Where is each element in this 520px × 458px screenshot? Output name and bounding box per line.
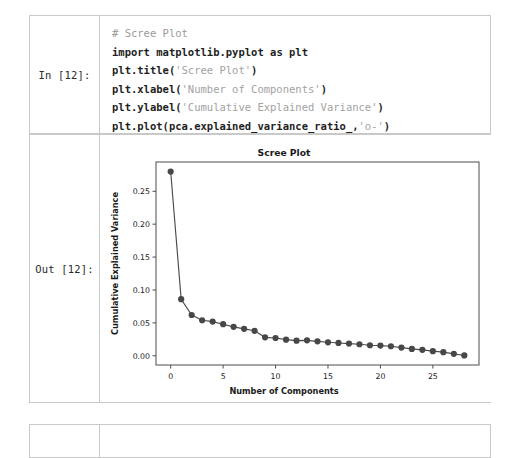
code-keyword-as: as <box>270 46 283 58</box>
input-source-area[interactable]: # Scree Plot import matplotlib.pyplot as… <box>100 16 490 133</box>
output-prompt-area: Out [12]: <box>30 135 100 402</box>
data-point-marker <box>419 347 425 353</box>
data-point-marker <box>199 317 205 323</box>
next-prompt-area <box>30 425 100 457</box>
code-call-xlabel: plt.xlabel( <box>112 83 182 95</box>
data-point-marker <box>377 342 383 348</box>
data-point-marker <box>335 340 341 346</box>
scree-plot-figure: Scree Plot 05101520250.000.050.100.150.2… <box>100 135 491 402</box>
code-call-ylabel: plt.ylabel( <box>112 101 182 113</box>
data-point-marker <box>440 349 446 355</box>
y-axis-label: Cumulative Explained Variance <box>110 192 120 335</box>
data-point-marker <box>293 338 299 344</box>
data-point-marker <box>388 343 394 349</box>
data-point-marker <box>241 326 247 332</box>
x-axis-label: Number of Components <box>229 386 338 396</box>
code-editor[interactable]: # Scree Plot import matplotlib.pyplot as… <box>100 16 490 136</box>
y-tick-label: 0.00 <box>133 352 150 361</box>
figure-background <box>100 135 491 402</box>
y-tick-label: 0.20 <box>133 220 150 229</box>
code-line-comment: # Scree Plot <box>112 27 188 39</box>
data-point-marker <box>272 335 278 341</box>
data-point-marker <box>251 328 257 334</box>
data-point-marker <box>325 339 331 345</box>
data-point-marker <box>178 296 184 302</box>
code-paren-xlabel: ) <box>321 83 327 95</box>
x-tick-label: 25 <box>428 372 438 381</box>
notebook-cell-next[interactable] <box>29 424 491 458</box>
y-tick-label: 0.05 <box>133 319 150 328</box>
data-point-marker <box>398 344 404 350</box>
scree-plot-svg: Scree Plot 05101520250.000.050.100.150.2… <box>100 135 491 402</box>
data-point-marker <box>189 312 195 318</box>
data-point-marker <box>220 321 226 327</box>
data-point-marker <box>283 337 289 343</box>
x-tick-label: 5 <box>221 372 226 381</box>
data-point-marker <box>451 351 457 357</box>
notebook-cell-input[interactable]: In [12]: # Scree Plot import matplotlib.… <box>29 15 491 134</box>
output-result-area: Scree Plot 05101520250.000.050.100.150.2… <box>100 135 490 402</box>
data-point-marker <box>356 341 362 347</box>
y-tick-label: 0.15 <box>133 253 150 262</box>
code-call-plot: plt.plot(pca.explained_variance_ratio_, <box>112 120 359 132</box>
code-module-matplotlib: matplotlib.pyplot <box>156 46 263 58</box>
data-point-marker <box>314 338 320 344</box>
input-prompt-label: In [12]: <box>38 69 90 81</box>
data-point-marker <box>346 341 352 347</box>
chart-title: Scree Plot <box>258 147 311 158</box>
data-point-marker <box>262 334 268 340</box>
code-alias-plt: plt <box>289 46 308 58</box>
code-string-ylabel: 'Cumulative Explained Variance' <box>182 101 378 113</box>
data-point-marker <box>168 168 174 174</box>
y-tick-label: 0.25 <box>133 187 150 196</box>
code-string-plotfmt: 'o-' <box>359 120 384 132</box>
output-prompt-label: Out [12]: <box>35 263 94 275</box>
code-paren-title: ) <box>251 64 257 76</box>
data-point-marker <box>367 342 373 348</box>
x-tick-label: 10 <box>271 372 281 381</box>
data-point-marker <box>430 348 436 354</box>
data-point-marker <box>210 318 216 324</box>
input-prompt-area: In [12]: <box>30 16 100 133</box>
x-tick-label: 0 <box>168 372 173 381</box>
code-paren-plot: ) <box>384 120 390 132</box>
code-string-title: 'Scree Plot' <box>175 64 251 76</box>
code-string-xlabel: 'Number of Components' <box>182 83 321 95</box>
data-point-marker <box>461 352 467 358</box>
notebook-cell-output[interactable]: Out [12]: Scree Plot 05101520250.000.050… <box>29 134 491 403</box>
code-keyword-import: import <box>112 46 150 58</box>
code-call-title: plt.title( <box>112 64 175 76</box>
y-tick-label: 0.10 <box>133 286 150 295</box>
data-point-marker <box>304 337 310 343</box>
x-tick-label: 15 <box>323 372 333 381</box>
data-point-marker <box>231 324 237 330</box>
next-source-area[interactable] <box>100 425 490 457</box>
x-tick-label: 20 <box>375 372 385 381</box>
code-paren-ylabel: ) <box>378 101 384 113</box>
data-point-marker <box>409 346 415 352</box>
